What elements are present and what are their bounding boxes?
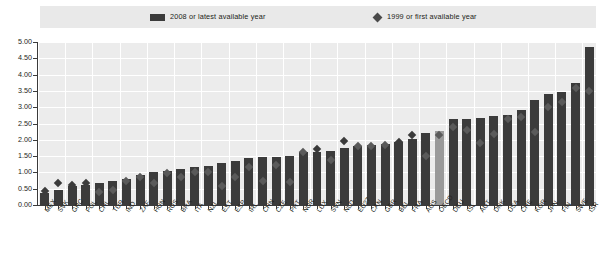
x-axis-tick [385, 206, 386, 209]
y-axis-tick [33, 205, 37, 206]
y-axis-tick-label: 3.00 [4, 103, 32, 110]
x-axis-tick [358, 206, 359, 209]
x-axis-tick [235, 206, 236, 209]
chart-root: 2008 or latest available year 1999 or fi… [0, 0, 602, 259]
y-axis-line [37, 42, 38, 206]
x-axis-tick [72, 206, 73, 209]
x-axis-tick [317, 206, 318, 209]
y-axis-tick [33, 58, 37, 59]
gridline-horizontal [38, 124, 596, 125]
y-axis-labels: 5.004.504.003.503.002.502.001.501.000.50… [0, 0, 32, 259]
gridline-vertical [446, 42, 447, 205]
x-axis-tick [494, 206, 495, 209]
gridline-vertical [65, 42, 66, 205]
x-axis-tick [303, 206, 304, 209]
x-axis-tick [412, 206, 413, 209]
y-axis-tick-label: 5.00 [4, 38, 32, 45]
legend-item-2008: 2008 or latest available year [150, 6, 266, 28]
x-axis-tick [126, 206, 127, 209]
bar-fin [557, 92, 566, 205]
x-axis-tick [249, 206, 250, 209]
x-axis-tick [589, 206, 590, 209]
legend-label-2008: 2008 or latest available year [170, 13, 266, 20]
gridline-vertical [337, 42, 338, 205]
x-axis-tick [453, 206, 454, 209]
x-axis-tick [548, 206, 549, 209]
y-axis-tick [33, 140, 37, 141]
gridline-horizontal [38, 91, 596, 92]
x-axis-tick [276, 206, 277, 209]
x-axis-tick [576, 206, 577, 209]
gridline-vertical [256, 42, 257, 205]
gridline-horizontal [38, 42, 596, 43]
gridline-vertical [392, 42, 393, 205]
bar-kor [530, 100, 539, 205]
y-axis-tick-label: 0.50 [4, 185, 32, 192]
x-axis-tick [535, 206, 536, 209]
y-axis-tick [33, 189, 37, 190]
gridline-vertical [201, 42, 202, 205]
gridline-vertical [365, 42, 366, 205]
bar-hun [149, 172, 158, 205]
bar-eu27 [353, 146, 362, 205]
bar-usa [503, 115, 512, 205]
x-axis-tick [344, 206, 345, 209]
bar-isr [585, 47, 594, 205]
chart-legend: 2008 or latest available year 1999 or fi… [40, 6, 596, 28]
bar-lux [313, 152, 322, 205]
y-axis-tick-label: 2.50 [4, 120, 32, 127]
bar-aus [421, 133, 430, 205]
x-axis-tick [45, 206, 46, 209]
gridline-vertical [582, 42, 583, 205]
y-axis-tick [33, 42, 37, 43]
x-axis-tick [58, 206, 59, 209]
x-axis-tick [290, 206, 291, 209]
gridline-vertical [92, 42, 93, 205]
y-axis-tick-label: 3.50 [4, 87, 32, 94]
bar-swe [571, 83, 580, 205]
gridline-vertical [501, 42, 502, 205]
x-axis-tick [521, 206, 522, 209]
x-axis-tick [439, 206, 440, 209]
y-axis-tick [33, 107, 37, 108]
bar-can [367, 145, 376, 205]
x-axis-tick [167, 206, 168, 209]
y-axis-tick [33, 91, 37, 92]
gridline-horizontal [38, 75, 596, 76]
gridline-vertical [310, 42, 311, 205]
x-axis-tick [208, 206, 209, 209]
gridline-vertical [528, 42, 529, 205]
y-axis-tick [33, 75, 37, 76]
legend-label-1999: 1999 or first available year [387, 13, 477, 20]
x-axis-tick [99, 206, 100, 209]
y-axis-tick [33, 156, 37, 157]
y-axis-tick [33, 124, 37, 125]
x-axis-tick [222, 206, 223, 209]
x-axis-tick [426, 206, 427, 209]
x-axis-tick [371, 206, 372, 209]
x-axis-tick [195, 206, 196, 209]
x-axis-tick [467, 206, 468, 209]
gridline-vertical [174, 42, 175, 205]
gridline-vertical [229, 42, 230, 205]
y-axis-tick-label: 2.00 [4, 136, 32, 143]
bar-oecd [435, 131, 444, 205]
x-axis-tick [562, 206, 563, 209]
x-axis-tick [331, 206, 332, 209]
bar-bel [394, 142, 403, 205]
y-axis-tick-label: 4.00 [4, 71, 32, 78]
bar-nld [340, 148, 349, 205]
x-axis-tick [181, 206, 182, 209]
y-axis-tick-label: 1.00 [4, 168, 32, 175]
y-axis-tick [33, 172, 37, 173]
gridline-vertical [147, 42, 148, 205]
x-axis-tick [154, 206, 155, 209]
x-axis-tick [480, 206, 481, 209]
x-axis-tick [140, 206, 141, 209]
x-axis-tick [86, 206, 87, 209]
gridline-vertical [38, 42, 39, 205]
square-swatch-icon [150, 14, 165, 21]
gridline-vertical [419, 42, 420, 205]
bar-deu [449, 119, 458, 205]
bar-nor [299, 152, 308, 205]
